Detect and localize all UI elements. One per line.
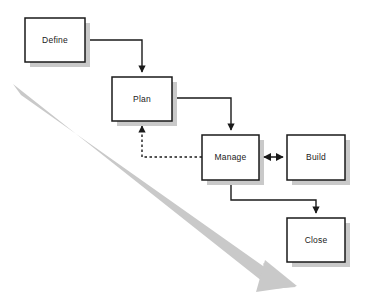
- node-define-label: Define: [42, 35, 68, 45]
- connector-define-to-plan: [85, 40, 142, 72]
- process-flow-diagram: Define Plan Manage Build Close: [0, 0, 365, 295]
- node-manage[interactable]: Manage: [202, 135, 264, 185]
- node-build[interactable]: Build: [287, 135, 350, 185]
- node-plan[interactable]: Plan: [112, 77, 177, 126]
- connector-plan-to-manage: [172, 98, 231, 130]
- connector-manage-to-plan-feedback: [142, 126, 202, 157]
- flow-diagram-svg: Define Plan Manage Build Close: [0, 0, 365, 295]
- node-plan-label: Plan: [133, 94, 151, 104]
- node-close[interactable]: Close: [287, 218, 350, 267]
- node-close-label: Close: [305, 235, 328, 245]
- node-define[interactable]: Define: [25, 18, 90, 67]
- node-build-label: Build: [306, 152, 326, 162]
- node-manage-label: Manage: [215, 152, 247, 162]
